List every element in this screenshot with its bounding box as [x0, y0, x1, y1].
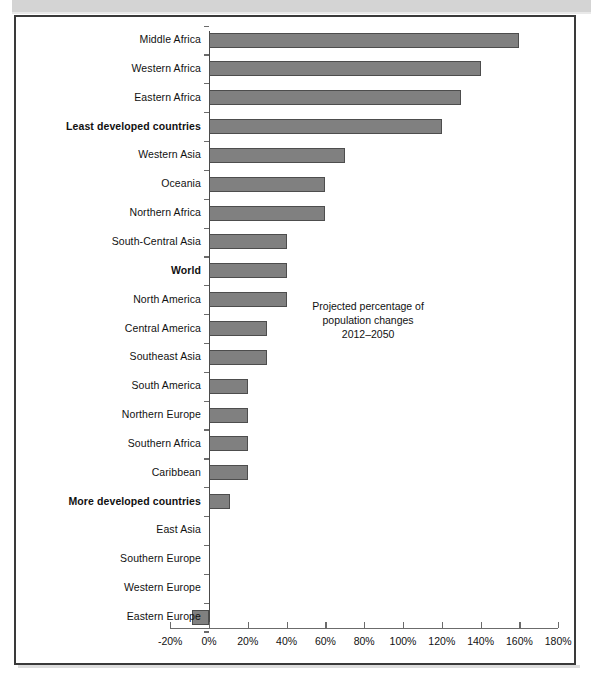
chart-annotation: Projected percentage of population chang…	[312, 299, 424, 341]
category-label-oceania: Oceania	[21, 177, 201, 189]
y-axis-tick	[204, 199, 209, 200]
category-label-southern-africa: Southern Africa	[21, 437, 201, 449]
category-label-south-america: South America	[21, 379, 201, 391]
bar-western-africa	[209, 61, 481, 76]
y-axis-tick	[204, 372, 209, 373]
bar-western-asia	[209, 148, 345, 163]
category-label-north-america: North America	[21, 293, 201, 305]
x-axis-tick	[325, 622, 326, 628]
category-label-world: World	[21, 264, 201, 276]
y-axis-tick	[204, 603, 209, 604]
category-label-more-developed-countries: More developed countries	[21, 495, 201, 507]
category-label-southeast-asia: Southeast Asia	[21, 350, 201, 362]
category-label-middle-africa: Middle Africa	[21, 33, 201, 45]
bar-northern-europe	[209, 408, 248, 423]
x-axis-tick	[287, 622, 288, 628]
category-label-central-america: Central America	[21, 322, 201, 334]
plot-area: Middle AfricaWestern AfricaEastern Afric…	[16, 17, 578, 667]
bar-middle-africa	[209, 33, 519, 48]
category-label-eastern-africa: Eastern Africa	[21, 91, 201, 103]
y-axis-tick	[204, 112, 209, 113]
y-axis-tick	[204, 314, 209, 315]
x-axis-tick	[248, 622, 249, 628]
bar-southeast-asia	[209, 350, 267, 365]
bar-central-america	[209, 321, 267, 336]
top-banner-shadow	[12, 12, 591, 14]
bar-southern-africa	[209, 436, 248, 451]
y-axis-tick	[204, 141, 209, 142]
x-axis-tick	[209, 622, 210, 628]
annotation-line-1: Projected percentage of	[312, 299, 424, 313]
category-label-northern-africa: Northern Africa	[21, 206, 201, 218]
category-label-south-central-asia: South-Central Asia	[21, 235, 201, 247]
annotation-line-3: 2012–2050	[312, 327, 424, 341]
bar-south-america	[209, 379, 248, 394]
top-banner-strip	[12, 0, 591, 12]
category-label-western-africa: Western Africa	[21, 62, 201, 74]
annotation-line-2: population changes	[312, 313, 424, 327]
x-axis-line	[170, 628, 558, 629]
y-axis-tick	[204, 343, 209, 344]
x-axis-tick-label: 180%	[533, 635, 583, 647]
y-axis-tick	[204, 170, 209, 171]
x-axis-tick	[403, 622, 404, 628]
bar-south-central-asia	[209, 234, 287, 249]
bar-northern-africa	[209, 206, 325, 221]
y-axis-tick	[204, 574, 209, 575]
category-label-northern-europe: Northern Europe	[21, 408, 201, 420]
y-axis-tick	[204, 429, 209, 430]
y-axis-tick	[204, 631, 209, 632]
category-label-least-developed-countries: Least developed countries	[21, 120, 201, 132]
y-axis-tick	[204, 256, 209, 257]
chart-page: Middle AfricaWestern AfricaEastern Afric…	[0, 0, 591, 682]
category-label-caribbean: Caribbean	[21, 466, 201, 478]
x-axis-tick	[519, 622, 520, 628]
y-axis-tick	[204, 54, 209, 55]
bar-north-america	[209, 292, 287, 307]
x-axis-tick	[170, 622, 171, 628]
y-axis-tick	[204, 545, 209, 546]
bar-caribbean	[209, 465, 248, 480]
y-axis-tick	[204, 487, 209, 488]
y-axis-tick	[204, 401, 209, 402]
x-axis-tick	[442, 622, 443, 628]
y-axis-tick	[204, 285, 209, 286]
bar-least-developed-countries	[209, 119, 442, 134]
y-axis-tick	[204, 26, 209, 27]
bar-more-developed-countries	[209, 494, 230, 509]
y-axis-tick	[204, 458, 209, 459]
x-axis-tick	[558, 622, 559, 628]
bar-eastern-africa	[209, 90, 461, 105]
x-axis-tick	[481, 622, 482, 628]
x-axis-tick	[364, 622, 365, 628]
category-label-western-asia: Western Asia	[21, 148, 201, 160]
category-label-southern-europe: Southern Europe	[21, 552, 201, 564]
figure-frame: Middle AfricaWestern AfricaEastern Afric…	[14, 15, 576, 665]
bar-world	[209, 263, 287, 278]
bar-oceania	[209, 177, 325, 192]
category-label-eastern-europe: Eastern Europe	[21, 610, 201, 622]
y-axis-tick	[204, 516, 209, 517]
y-axis-tick	[204, 83, 209, 84]
category-label-western-europe: Western Europe	[21, 581, 201, 593]
y-axis-tick	[204, 228, 209, 229]
category-label-east-asia: East Asia	[21, 523, 201, 535]
